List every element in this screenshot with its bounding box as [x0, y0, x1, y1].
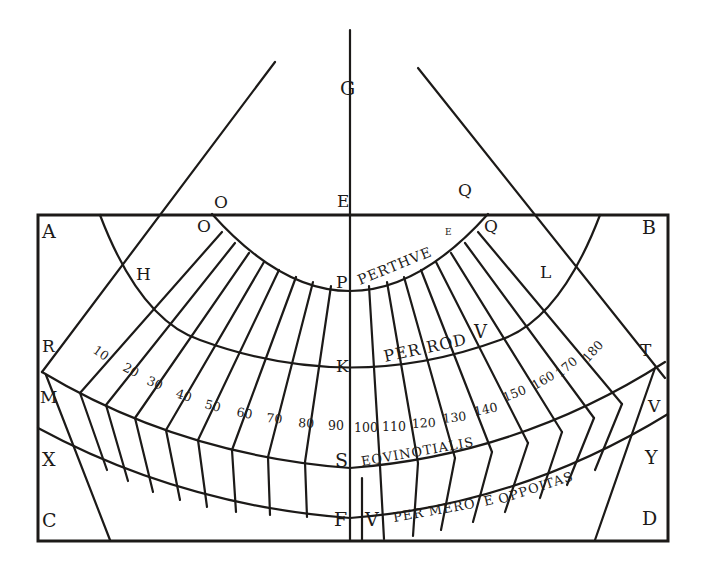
scale-numbers: 10 20 30 40 50 60 70 80 90 100 110 120 1… — [90, 337, 606, 435]
label-K: K — [336, 356, 349, 376]
scale-140: 140 — [473, 399, 500, 419]
scale-110: 110 — [382, 419, 406, 434]
scale-130: 130 — [442, 409, 467, 426]
label-V-right: V — [647, 396, 661, 416]
caption-perthue: PERTHVE — [355, 243, 434, 287]
line-G-R — [42, 62, 275, 372]
label-R: R — [42, 336, 56, 356]
label-F: F — [334, 508, 347, 530]
label-A: A — [41, 220, 56, 242]
label-O-inner: O — [197, 216, 211, 236]
scale-100: 100 — [354, 420, 378, 435]
label-P: P — [336, 272, 347, 292]
label-B: B — [642, 216, 656, 238]
label-H: H — [136, 264, 151, 284]
scale-120: 120 — [411, 415, 436, 431]
caption-permero-e: E — [482, 492, 496, 509]
scale-70: 70 — [266, 410, 283, 427]
label-Y: Y — [644, 446, 658, 468]
scale-180: 180 — [579, 337, 606, 365]
label-E: E — [337, 191, 349, 211]
scale-170: 170 — [552, 353, 580, 380]
label-V-bottom: V — [364, 508, 379, 530]
label-O-outer: O — [214, 192, 228, 212]
caption-permero: PER MERO — [392, 496, 477, 525]
scale-90: 90 — [328, 418, 344, 433]
scale-30: 30 — [145, 373, 165, 393]
label-C: C — [42, 509, 57, 531]
scale-160: 160 — [529, 368, 557, 393]
label-X: X — [42, 448, 56, 470]
label-D: D — [642, 507, 657, 529]
scale-60: 60 — [235, 404, 253, 422]
label-Q-outer: Q — [458, 180, 472, 200]
dial-diagram: G E O O Q Q A B C D H L P K R T M V X Y … — [0, 0, 712, 572]
scale-50: 50 — [203, 396, 222, 414]
label-G: G — [340, 77, 355, 99]
caption-perthue-sup: E — [445, 227, 453, 237]
scale-80: 80 — [298, 415, 315, 431]
label-M: M — [40, 387, 57, 407]
label-T: T — [640, 340, 652, 360]
scale-150: 150 — [501, 382, 529, 405]
label-L: L — [540, 262, 551, 282]
caption-perrod-v: V — [473, 321, 488, 342]
label-Q-inner: Q — [484, 216, 498, 236]
label-S: S — [335, 449, 348, 471]
